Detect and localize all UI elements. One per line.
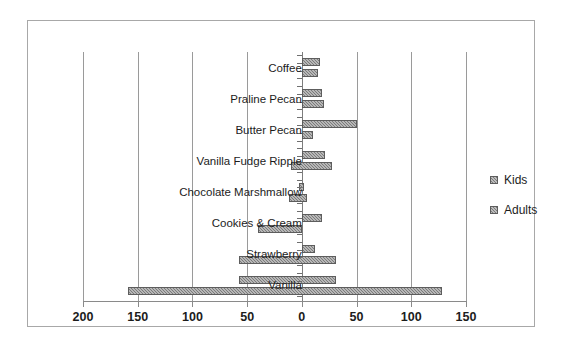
x-axis-tick-label: 100 bbox=[401, 310, 422, 324]
x-axis-tick bbox=[302, 301, 303, 307]
legend-label: Adults bbox=[504, 203, 537, 217]
bar-kids-strawberry[interactable] bbox=[302, 245, 315, 253]
x-axis-tick-label: 100 bbox=[182, 310, 203, 324]
category-label-cookies-cream: Cookies & Cream bbox=[212, 217, 302, 229]
legend-label: Kids bbox=[504, 173, 527, 187]
category-label-butter-pecan: Butter Pecan bbox=[235, 124, 301, 136]
axis-minor-tick bbox=[297, 55, 302, 56]
axis-minor-tick bbox=[297, 203, 302, 204]
axis-minor-tick bbox=[297, 141, 302, 142]
axis-minor-tick bbox=[297, 296, 302, 297]
axis-minor-tick bbox=[297, 86, 302, 87]
axis-minor-tick bbox=[297, 180, 302, 181]
gridline-150 bbox=[466, 52, 467, 301]
axis-minor-tick bbox=[297, 117, 302, 118]
x-axis-ticks bbox=[83, 301, 466, 308]
chart-legend: KidsAdults bbox=[490, 173, 556, 233]
legend-item-kids[interactable]: Kids bbox=[490, 173, 556, 187]
x-axis-tick-label: 50 bbox=[350, 310, 364, 324]
bar-adults-praline-pecan[interactable] bbox=[302, 100, 324, 108]
bar-adults-butter-pecan[interactable] bbox=[302, 131, 313, 139]
category-label-coffee: Coffee bbox=[268, 62, 302, 74]
x-axis-tick bbox=[138, 301, 139, 307]
plot-area: CoffeePraline PecanButter PecanVanilla F… bbox=[83, 52, 466, 301]
axis-minor-tick bbox=[297, 265, 302, 266]
x-axis-tick bbox=[466, 301, 467, 307]
axis-minor-tick bbox=[297, 234, 302, 235]
bar-kids-vanilla-fudge-ripple[interactable] bbox=[302, 151, 325, 159]
x-axis-tick-label: 0 bbox=[298, 310, 305, 324]
x-axis-tick bbox=[411, 301, 412, 307]
x-axis-tick-label: 50 bbox=[240, 310, 254, 324]
axis-minor-tick bbox=[297, 109, 302, 110]
axis-minor-tick bbox=[297, 78, 302, 79]
axis-minor-tick bbox=[297, 211, 302, 212]
x-axis-tick-labels: 20015010050050100150 bbox=[83, 310, 466, 328]
category-label-praline-pecan: Praline Pecan bbox=[230, 93, 302, 105]
legend-swatch-icon bbox=[490, 206, 498, 214]
axis-minor-tick bbox=[297, 273, 302, 274]
bar-kids-praline-pecan[interactable] bbox=[302, 89, 322, 97]
x-axis-tick-label: 150 bbox=[127, 310, 148, 324]
x-axis-tick bbox=[83, 301, 84, 307]
bar-kids-coffee[interactable] bbox=[302, 58, 321, 66]
category-label-strawberry: Strawberry bbox=[246, 248, 302, 260]
bar-kids-cookies-cream[interactable] bbox=[302, 214, 322, 222]
axis-minor-tick bbox=[297, 172, 302, 173]
category-label-vanilla-fudge-ripple: Vanilla Fudge Ripple bbox=[197, 155, 302, 167]
x-axis-tick bbox=[247, 301, 248, 307]
category-label-vanilla: Vanilla bbox=[268, 279, 302, 291]
x-axis-tick bbox=[357, 301, 358, 307]
x-axis-tick bbox=[192, 301, 193, 307]
legend-item-adults[interactable]: Adults bbox=[490, 203, 556, 217]
category-label-chocolate-marshmallow: Chocolate Marshmallow bbox=[179, 186, 302, 198]
x-axis-tick-label: 150 bbox=[456, 310, 477, 324]
x-axis-tick-label: 200 bbox=[73, 310, 94, 324]
axis-minor-tick bbox=[297, 242, 302, 243]
chart-frame: CoffeePraline PecanButter PecanVanilla F… bbox=[27, 20, 535, 327]
bar-adults-coffee[interactable] bbox=[302, 69, 318, 77]
axis-minor-tick bbox=[297, 148, 302, 149]
bar-kids-butter-pecan[interactable] bbox=[302, 120, 357, 128]
legend-swatch-icon bbox=[490, 176, 498, 184]
